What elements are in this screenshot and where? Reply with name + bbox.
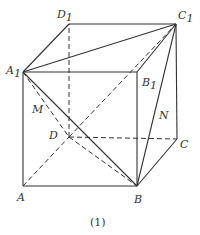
edge-A-D xyxy=(23,137,69,186)
edge-D-B xyxy=(69,137,137,186)
edge-D-C xyxy=(69,137,177,139)
label-D: D xyxy=(48,129,58,142)
label-A1: A1 xyxy=(5,64,21,80)
cube-diagram: D1 C1 A1 B1 M N D C A B (1) xyxy=(0,0,200,235)
edge-A1-D xyxy=(23,72,69,137)
label-A: A xyxy=(16,191,25,204)
label-D1: D1 xyxy=(56,8,73,24)
label-B1: B1 xyxy=(141,76,157,92)
label-B: B xyxy=(133,193,142,206)
label-M: M xyxy=(31,103,44,116)
label-C1: C1 xyxy=(178,9,193,25)
figure-caption: (1) xyxy=(90,216,106,229)
edge-C-C1 xyxy=(176,24,177,139)
label-N: N xyxy=(158,109,169,122)
edge-A1-B xyxy=(23,72,137,186)
label-C: C xyxy=(180,138,189,151)
